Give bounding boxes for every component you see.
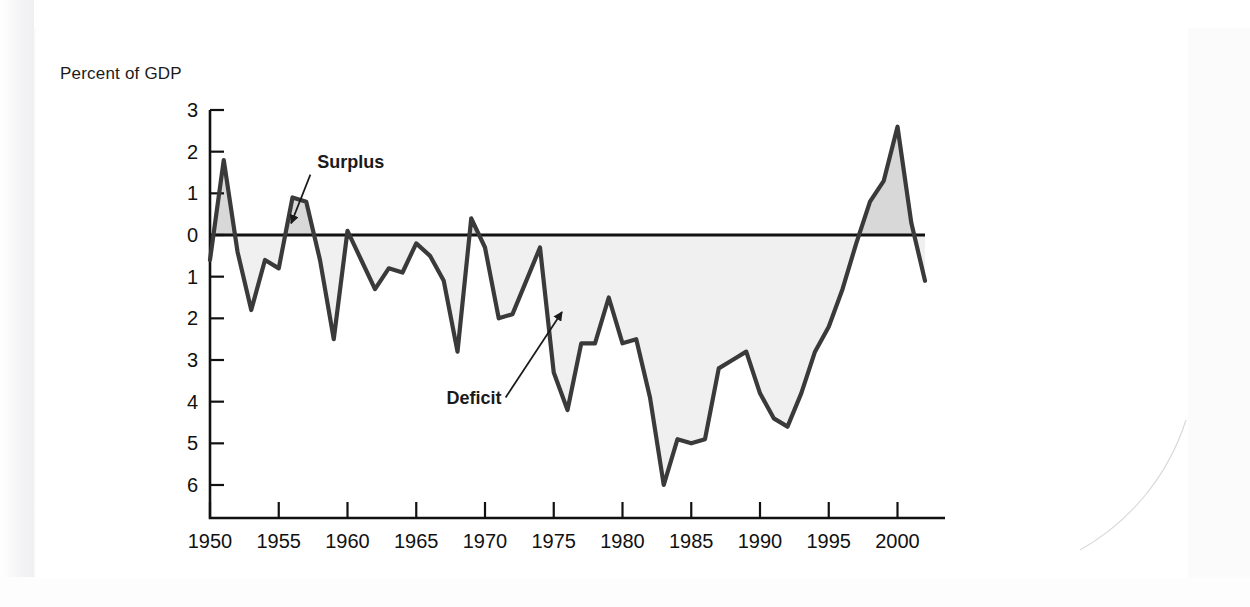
annotation-label: Deficit: [447, 388, 502, 408]
annotation-deficit: Deficit: [447, 312, 563, 408]
x-axis-ticks: 1950195519601965197019751980198519901995…: [188, 502, 920, 552]
x-tick-label: 2000: [875, 530, 920, 552]
x-tick-label: 1980: [600, 530, 645, 552]
y-tick-label: 1: [187, 266, 198, 288]
surplus-area-fill: [213, 127, 914, 235]
surplus-deficit-chart: 3210123456 19501955196019651970197519801…: [0, 0, 1250, 607]
y-tick-label: 3: [187, 349, 198, 371]
y-tick-label: 4: [187, 391, 198, 413]
deficit-area-fill: [210, 235, 925, 485]
y-tick-label: 1: [187, 182, 198, 204]
x-tick-label: 1995: [807, 530, 852, 552]
y-tick-label: 0: [187, 224, 198, 246]
annotation-label: Surplus: [317, 152, 384, 172]
y-tick-label: 2: [187, 307, 198, 329]
x-tick-label: 1985: [669, 530, 714, 552]
x-tick-label: 1970: [463, 530, 508, 552]
screenshot-page: Percent of GDP 3210123456 19501955196019…: [0, 0, 1250, 607]
y-tick-label: 6: [187, 474, 198, 496]
y-tick-label: 2: [187, 141, 198, 163]
x-tick-label: 1955: [257, 530, 302, 552]
x-tick-label: 1990: [738, 530, 783, 552]
y-axis-ticks: 3210123456: [187, 99, 224, 496]
x-tick-label: 1975: [532, 530, 577, 552]
x-tick-label: 1960: [325, 530, 370, 552]
y-tick-label: 3: [187, 99, 198, 121]
y-tick-label: 5: [187, 432, 198, 454]
x-tick-label: 1965: [394, 530, 439, 552]
x-tick-label: 1950: [188, 530, 233, 552]
